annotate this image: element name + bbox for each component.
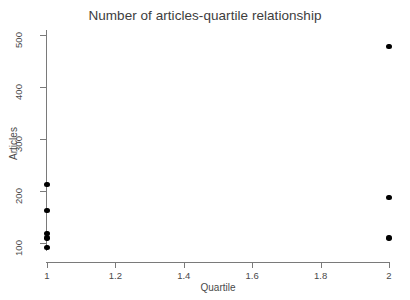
y-tick-mark	[40, 191, 46, 192]
x-tick-mark	[47, 263, 48, 268]
y-tick-mark	[40, 243, 46, 244]
x-tick-mark	[321, 263, 322, 268]
y-tick-label-text: 400	[13, 84, 25, 100]
data-point	[386, 195, 391, 200]
scatter-chart-figure: Number of articles-quartile relationship…	[0, 0, 410, 300]
x-tick-mark	[115, 263, 116, 268]
data-point	[44, 235, 49, 240]
data-point	[386, 44, 391, 49]
y-tick-mark	[40, 35, 46, 36]
x-tick-label: 1.2	[100, 270, 130, 281]
x-tick-label: 2	[374, 270, 404, 281]
data-point	[386, 235, 391, 240]
y-axis-title-text: Articles	[8, 116, 19, 172]
x-tick-label: 1.4	[169, 270, 199, 281]
y-tick-label: 100	[0, 237, 38, 249]
y-tick-mark	[40, 139, 46, 140]
x-tick-label: 1.8	[306, 270, 336, 281]
plot-area	[47, 30, 389, 250]
x-tick-mark	[184, 263, 185, 268]
chart-title: Number of articles-quartile relationship	[0, 8, 410, 23]
y-tick-label-text: 100	[13, 240, 25, 256]
x-tick-mark	[252, 263, 253, 268]
y-tick-label: 400	[0, 81, 38, 93]
x-tick-mark	[389, 263, 390, 268]
y-axis-title: Articles	[6, 110, 20, 180]
y-tick-label: 200	[0, 185, 38, 197]
x-axis-line	[46, 262, 390, 263]
x-tick-label: 1.6	[237, 270, 267, 281]
y-tick-label-text: 200	[13, 188, 25, 204]
data-point	[44, 245, 49, 250]
y-tick-label: 500	[0, 29, 38, 41]
x-tick-label: 1	[32, 270, 62, 281]
data-point	[44, 182, 49, 187]
data-point	[44, 208, 49, 213]
x-axis-title: Quartile	[47, 282, 389, 293]
y-tick-mark	[40, 87, 46, 88]
y-tick-label-text: 500	[13, 32, 25, 48]
